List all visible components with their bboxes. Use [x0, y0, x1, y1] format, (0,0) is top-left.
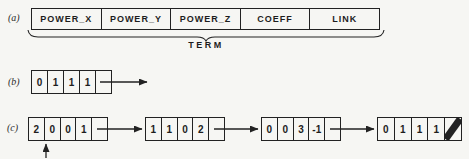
- node-cell: 3: [293, 118, 309, 140]
- node-b-cell: 1: [63, 71, 79, 93]
- term-brace-label: TERM: [176, 40, 236, 50]
- field-power-y: POWER_Y: [101, 9, 171, 29]
- field-link: LINK: [309, 9, 379, 29]
- list-node: 2 0 0 1: [28, 117, 108, 141]
- node-cell: 0: [277, 118, 293, 140]
- node-cell: 0: [44, 118, 60, 140]
- node-link-cell: [91, 118, 107, 140]
- row-c-label: (c): [7, 122, 18, 133]
- node-b-cell: 1: [47, 71, 63, 93]
- node-cell: 1: [394, 118, 411, 140]
- node-cell: 2: [29, 118, 44, 140]
- node-cell: 1: [75, 118, 91, 140]
- node-b-link-cell: [95, 71, 111, 93]
- node-link-cell: [324, 118, 340, 140]
- diagram-canvas: (a) POWER_X POWER_Y POWER_Z COEFF LINK T…: [0, 0, 469, 159]
- list-node: 0 0 3 -1: [261, 117, 341, 141]
- list-node-last: 0 1 1 1: [377, 117, 462, 141]
- node-cell: 1: [427, 118, 444, 140]
- node-cell: -1: [308, 118, 324, 140]
- node-cell: 2: [192, 118, 208, 140]
- field-power-x: POWER_X: [32, 9, 101, 29]
- row-a-label: (a): [8, 12, 20, 23]
- node-cell: 0: [378, 118, 394, 140]
- record-layout-box: POWER_X POWER_Y POWER_Z COEFF LINK: [31, 8, 380, 30]
- field-power-z: POWER_Z: [170, 9, 240, 29]
- node-cell: 1: [146, 118, 161, 140]
- null-link-cell: [444, 118, 461, 140]
- row-b-label: (b): [8, 76, 20, 87]
- node-cell: 0: [262, 118, 277, 140]
- node-cell: 0: [177, 118, 193, 140]
- node-cell: 1: [411, 118, 428, 140]
- field-coeff: COEFF: [240, 9, 310, 29]
- node-cell: 0: [60, 118, 76, 140]
- node-link-cell: [208, 118, 224, 140]
- node-b-cell: 1: [79, 71, 95, 93]
- list-node: 1 1 0 2: [145, 117, 225, 141]
- null-slash-icon: [445, 118, 461, 140]
- node-b: 0 1 1 1: [31, 70, 112, 94]
- node-b-cell: 0: [32, 71, 47, 93]
- node-cell: 1: [161, 118, 177, 140]
